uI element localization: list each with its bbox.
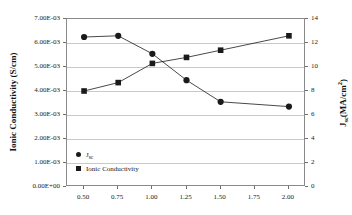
x-axis-tick-label: 1.50 [203, 193, 237, 201]
legend-item-2[interactable]: Ionic Conductivity [73, 162, 139, 176]
data-point [149, 51, 155, 57]
y-axis-left-tick-label: 5.00E-03 [14, 62, 60, 70]
y-axis-left-tick-label: 2.00E-03 [14, 134, 60, 142]
y-axis-left-tick-label: 4.00E-03 [14, 86, 60, 94]
y-axis-right-tick-label: 6 [311, 110, 331, 118]
data-point [183, 77, 189, 83]
y-axis-right-tick-label: 8 [311, 86, 331, 94]
y-axis-left-tick-label: 3.00E-03 [14, 110, 60, 118]
x-axis-tick-label: 2.00 [271, 193, 305, 201]
y-axis-left-tick-label: 1.00E-03 [14, 158, 60, 166]
y-axis-right-title-main: J [338, 123, 348, 128]
y-axis-right-title: Jsc(MA/cm2) [338, 38, 348, 168]
x-axis-tick-label: 1.25 [169, 193, 203, 201]
y-axis-right-tick-label: 0 [311, 182, 331, 190]
data-point [115, 80, 121, 86]
data-point [150, 61, 156, 67]
y-axis-left-tick-label: 6.00E-03 [14, 38, 60, 46]
data-point [218, 99, 224, 105]
data-point [184, 55, 190, 61]
chart-container: Ionic Conductivity (S/cm) Jsc(MA/cm2) 0.… [0, 0, 352, 215]
data-point [286, 33, 292, 39]
y-axis-right-tick-label: 14 [311, 14, 331, 22]
series-line-1 [84, 36, 289, 107]
y-axis-right-tick-label: 2 [311, 158, 331, 166]
y-axis-left-title: Ionic Conductivity (S/cm) [8, 32, 18, 172]
data-point [81, 88, 87, 94]
y-axis-right-title-unit: (MA/cm [338, 85, 348, 117]
y-axis-right-tick-label: 10 [311, 62, 331, 70]
y-axis-right-title-sup: 2 [336, 82, 343, 85]
x-axis-tick-label: 1.75 [237, 193, 271, 201]
y-axis-right-tick-label: 12 [311, 38, 331, 46]
legend-label: Ionic Conductivity [86, 165, 139, 173]
x-axis-tick-label: 0.50 [66, 193, 100, 201]
x-axis-tick-label: 0.75 [100, 193, 134, 201]
y-axis-left-tickmark [63, 186, 66, 187]
x-axis-tick-label: 1.00 [134, 193, 168, 201]
y-axis-left-tick-label: 0.00E+00 [14, 182, 60, 190]
data-point [81, 34, 87, 40]
data-point [218, 47, 224, 53]
square-marker-icon [73, 165, 83, 173]
data-point [115, 33, 121, 39]
data-point [286, 104, 292, 110]
legend-item-1[interactable]: Jsc [73, 148, 139, 162]
chart-legend: JscIonic Conductivity [73, 148, 139, 176]
y-axis-right-tick-label: 4 [311, 134, 331, 142]
y-axis-right-title-sub: sc [342, 117, 349, 122]
circle-marker-icon [73, 151, 83, 159]
legend-label: Jsc [86, 151, 93, 159]
y-axis-left-tick-label: 7.00E-03 [14, 14, 60, 22]
